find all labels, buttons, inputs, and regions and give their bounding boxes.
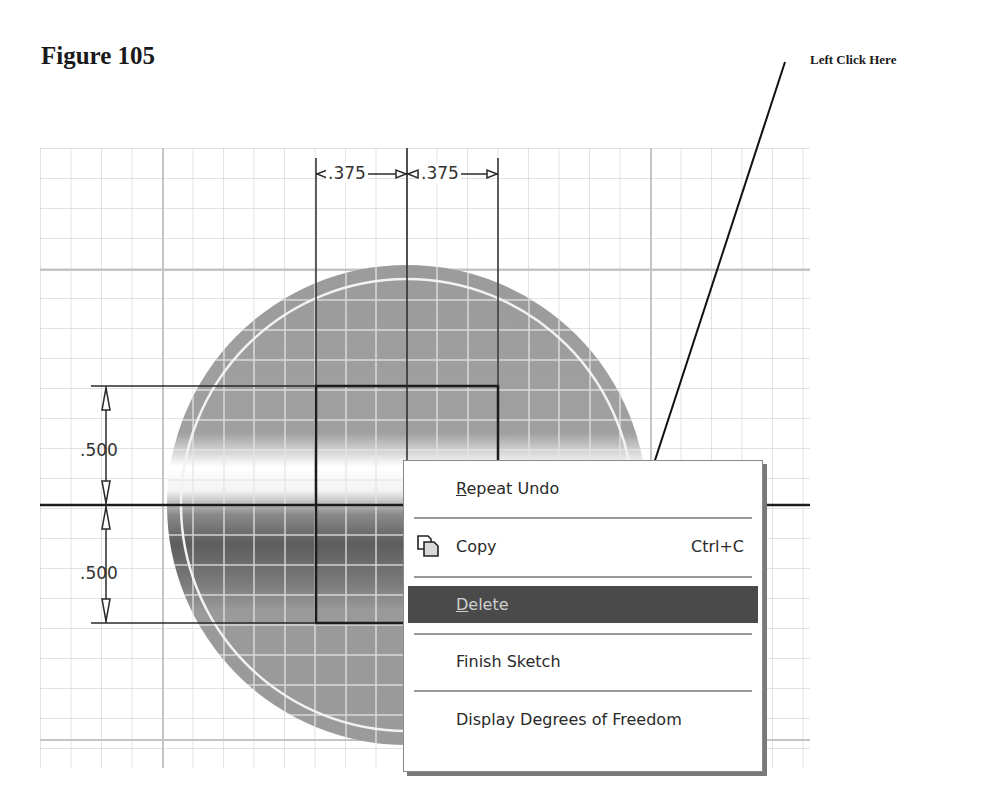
menu-item-shortcut: Ctrl+C bbox=[691, 537, 744, 556]
dimension-label-horizontal-left[interactable]: .375 bbox=[326, 163, 368, 183]
menu-separator bbox=[414, 690, 752, 692]
menu-item-label: Repeat Undo bbox=[456, 479, 559, 498]
dimension-label-horizontal-right[interactable]: .375 bbox=[419, 163, 461, 183]
dimension-label-vertical-top[interactable]: .500 bbox=[80, 440, 118, 460]
menu-item-copy[interactable]: Copy Ctrl+C bbox=[408, 529, 758, 563]
menu-item-label: Finish Sketch bbox=[456, 652, 561, 671]
menu-item-delete[interactable]: Delete bbox=[408, 586, 758, 623]
menu-item-finish-sketch[interactable]: Finish Sketch bbox=[408, 644, 758, 678]
context-menu: Repeat Undo Copy Ctrl+C Delete Finish Sk… bbox=[403, 460, 763, 772]
menu-item-repeat-undo[interactable]: Repeat Undo bbox=[408, 471, 758, 505]
menu-item-label: Copy bbox=[456, 537, 497, 556]
menu-item-label: Delete bbox=[456, 595, 509, 614]
dimension-label-vertical-bottom[interactable]: .500 bbox=[80, 563, 118, 583]
menu-separator bbox=[414, 517, 752, 519]
menu-item-label: Display Degrees of Freedom bbox=[456, 710, 682, 729]
menu-separator bbox=[414, 576, 752, 578]
menu-separator bbox=[414, 633, 752, 635]
menu-item-display-degrees-of-freedom[interactable]: Display Degrees of Freedom bbox=[408, 702, 758, 736]
copy-icon bbox=[416, 534, 442, 558]
